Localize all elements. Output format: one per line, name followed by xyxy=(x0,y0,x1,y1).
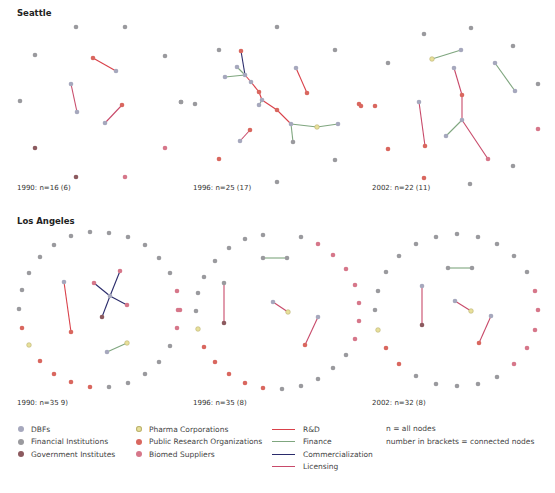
node-pro xyxy=(305,91,310,96)
legend-label: Commercialization xyxy=(303,450,373,459)
node-fin xyxy=(512,254,517,259)
legend-item-biomed-suppliers: Biomed Suppliers xyxy=(136,448,262,461)
edge-fin xyxy=(107,343,127,352)
node-fin xyxy=(168,344,173,349)
network-panel-5 xyxy=(373,232,541,389)
node-fin xyxy=(414,374,419,379)
node-bio xyxy=(357,319,362,324)
note-n-all-nodes: n = all nodes xyxy=(386,423,534,436)
edge-rd xyxy=(64,282,71,332)
dbf-node-icon xyxy=(18,426,24,432)
legend-item-public-research-organizations: Public Research Organizations xyxy=(136,436,262,449)
network-panel-3 xyxy=(17,230,183,390)
node-dbf xyxy=(289,122,294,127)
edge-lic xyxy=(71,84,77,112)
node-fin xyxy=(470,266,475,271)
node-pharma xyxy=(125,341,130,346)
node-dbf xyxy=(444,134,449,139)
node-fin xyxy=(126,235,131,240)
node-pro xyxy=(38,359,43,364)
legend-edge-types: R&D Finance Commercialization Licensing xyxy=(272,423,373,473)
node-pro xyxy=(91,56,96,61)
node-pharma xyxy=(196,327,201,332)
legend-label: Pharma Corporations xyxy=(149,425,228,434)
node-pro xyxy=(275,108,280,113)
edge-lic xyxy=(305,317,318,345)
node-dbf xyxy=(105,350,110,355)
node-dbf xyxy=(271,300,276,305)
node-pharma xyxy=(27,343,32,348)
node-pro xyxy=(257,90,262,95)
node-dbf xyxy=(513,89,518,94)
legend-label: Government Institutes xyxy=(31,450,115,459)
edge-fin xyxy=(291,124,293,142)
finance-line-icon xyxy=(272,441,295,442)
node-pro xyxy=(52,372,57,377)
legend-item-government-institutes: Government Institutes xyxy=(18,448,115,461)
node-fin xyxy=(107,231,112,236)
edge-rd xyxy=(93,58,116,71)
node-fin xyxy=(275,25,280,30)
network-panel-4 xyxy=(176,233,362,392)
node-fin xyxy=(168,271,173,276)
legend-label: Financial Institutions xyxy=(31,437,108,446)
note-brackets-connected: number in brackets = connected nodes xyxy=(386,436,534,449)
node-fin xyxy=(397,254,402,259)
node-pharma xyxy=(286,310,291,315)
edge-fin xyxy=(317,124,338,127)
legend-item-finance: Finance xyxy=(272,436,373,449)
node-fin xyxy=(291,140,296,145)
node-bio xyxy=(353,337,358,342)
edge-fin xyxy=(225,75,245,77)
node-fin xyxy=(157,256,162,261)
node-fin xyxy=(285,256,290,261)
legend-notes: n = all nodes number in brackets = conne… xyxy=(386,423,534,448)
node-bio xyxy=(163,146,168,151)
node-pharma xyxy=(469,309,474,314)
node-pro xyxy=(248,128,253,133)
node-dbf xyxy=(493,61,498,66)
legend-label: Public Research Organizations xyxy=(149,437,262,446)
node-bio xyxy=(344,267,349,272)
node-fin xyxy=(194,309,199,314)
node-bio xyxy=(92,281,97,286)
node-bio xyxy=(331,253,336,258)
node-fin xyxy=(123,25,128,30)
legend-label: Licensing xyxy=(303,462,338,471)
node-fin xyxy=(38,255,43,260)
node-pro xyxy=(384,346,389,351)
node-fin xyxy=(179,100,184,105)
legend-item-pharma-corporations: Pharma Corporations xyxy=(136,423,262,436)
legend-label: Biomed Suppliers xyxy=(149,450,215,459)
node-fin xyxy=(434,235,439,240)
node-pro xyxy=(227,372,232,377)
node-fin xyxy=(20,288,25,293)
edge-fin xyxy=(291,124,317,127)
edge-lic xyxy=(419,102,425,146)
node-fin xyxy=(414,242,419,247)
node-fin xyxy=(331,366,336,371)
edge-lic xyxy=(273,302,288,312)
node-fin xyxy=(476,382,481,387)
edge-lic xyxy=(454,68,462,95)
node-bio xyxy=(536,127,541,132)
node-fin xyxy=(202,275,207,280)
legend-node-types-1: DBFs Financial Institutions Government I… xyxy=(18,423,115,461)
node-dbf xyxy=(453,299,458,304)
network-panel-1 xyxy=(179,25,362,185)
node-bio xyxy=(357,301,362,306)
node-dbf xyxy=(238,139,243,144)
legend-label: Finance xyxy=(303,437,332,446)
node-pro xyxy=(239,49,244,54)
biomed-node-icon xyxy=(136,451,142,457)
node-bio xyxy=(533,328,538,333)
edge-lic xyxy=(479,316,491,343)
node-fin xyxy=(422,32,427,37)
node-fin xyxy=(511,164,516,169)
node-pro xyxy=(69,380,74,385)
node-gov xyxy=(222,321,227,326)
node-pro xyxy=(20,326,25,331)
node-fin xyxy=(384,270,389,275)
edge-com xyxy=(110,271,120,296)
legend-label: R&D xyxy=(303,425,320,434)
